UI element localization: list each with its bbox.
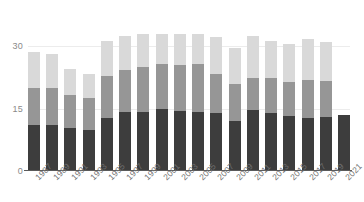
- bar-column[interactable]: [101, 34, 113, 171]
- x-label-slot: 1991: [64, 173, 76, 202]
- bar-segment-segment-mid: [320, 81, 332, 118]
- bar-segment-segment-light: [119, 36, 131, 70]
- y-axis-tick-label: 30: [12, 41, 23, 51]
- bar-column[interactable]: [137, 34, 149, 171]
- bar-segment-segment-mid: [119, 70, 131, 112]
- bar-segment-segment-light: [174, 34, 186, 65]
- bar-segment-segment-light: [283, 44, 295, 82]
- bar-segment-segment-light: [46, 54, 58, 88]
- bar-segment-segment-mid: [137, 67, 149, 112]
- x-label-slot: 2021: [338, 173, 350, 202]
- x-label-slot: 1989: [46, 173, 58, 202]
- x-label-slot: 2001: [156, 173, 168, 202]
- bar-segment-segment-mid: [210, 74, 222, 113]
- bar-segment-segment-light: [302, 39, 314, 81]
- bar-segment-segment-light: [101, 41, 113, 75]
- bar-column[interactable]: [210, 34, 222, 171]
- bar-segment-segment-mid: [247, 78, 259, 111]
- bar-segment-segment-light: [265, 41, 277, 78]
- x-label-slot: 2009: [229, 173, 241, 202]
- x-label-slot: 2003: [174, 173, 186, 202]
- bar-segment-segment-light: [247, 36, 259, 78]
- x-label-slot: 2013: [265, 173, 277, 202]
- bar-column[interactable]: [156, 34, 168, 171]
- bar-column[interactable]: [192, 34, 204, 171]
- bar-column[interactable]: [119, 34, 131, 171]
- bar-segment-segment-light: [137, 34, 149, 67]
- bar-segment-segment-light: [64, 69, 76, 96]
- bar-segment-segment-mid: [101, 76, 113, 118]
- bar-column[interactable]: [64, 34, 76, 171]
- bar-segment-segment-mid: [192, 64, 204, 112]
- bar-column[interactable]: [46, 34, 58, 171]
- x-label-slot: 2019: [320, 173, 332, 202]
- bar-column[interactable]: [229, 34, 241, 171]
- y-axis-tick-label: 15: [12, 104, 23, 114]
- bar-segment-segment-dark: [28, 125, 40, 171]
- bar-segment-segment-light: [210, 37, 222, 74]
- bar-segment-segment-light: [83, 74, 95, 98]
- bar-column[interactable]: [174, 34, 186, 171]
- bar-column[interactable]: [265, 34, 277, 171]
- bar-segment-segment-mid: [64, 95, 76, 128]
- x-label-slot: 1999: [137, 173, 149, 202]
- bar-segment-segment-mid: [302, 80, 314, 118]
- bar-segment-segment-mid: [83, 98, 95, 130]
- x-label-slot: 2007: [210, 173, 222, 202]
- bar-segment-segment-light: [229, 48, 241, 85]
- x-label-slot: 1993: [83, 173, 95, 202]
- x-label-slot: 2011: [247, 173, 259, 202]
- bar-column[interactable]: [28, 34, 40, 171]
- bar-segment-segment-light: [320, 42, 332, 81]
- bar-segment-segment-mid: [229, 84, 241, 121]
- y-axis-tick-label: 0: [18, 166, 23, 176]
- bar-segment-segment-light: [28, 52, 40, 88]
- x-label-slot: 2017: [302, 173, 314, 202]
- bar-column[interactable]: [283, 34, 295, 171]
- bar-segment-segment-mid: [283, 82, 295, 116]
- bar-column[interactable]: [320, 34, 332, 171]
- x-axis-labels: 1987198919911993199519971999200120032005…: [28, 173, 350, 202]
- x-label-slot: 2005: [192, 173, 204, 202]
- bar-column[interactable]: [338, 34, 350, 171]
- x-label-slot: 2015: [283, 173, 295, 202]
- x-label-slot: 1997: [119, 173, 131, 202]
- bar-segment-segment-mid: [28, 88, 40, 125]
- bar-segment-segment-mid: [265, 78, 277, 113]
- bar-segment-segment-mid: [156, 64, 168, 110]
- bar-segment-segment-light: [156, 34, 168, 64]
- bar-group: [28, 34, 350, 171]
- bar-segment-segment-mid: [174, 65, 186, 110]
- x-label-slot: 1987: [28, 173, 40, 202]
- bar-segment-segment-light: [192, 34, 204, 64]
- bar-column[interactable]: [83, 34, 95, 171]
- x-label-slot: 1995: [101, 173, 113, 202]
- bar-segment-segment-mid: [46, 88, 58, 125]
- plot-area: 01530: [28, 34, 350, 171]
- bar-column[interactable]: [247, 34, 259, 171]
- bar-column[interactable]: [302, 34, 314, 171]
